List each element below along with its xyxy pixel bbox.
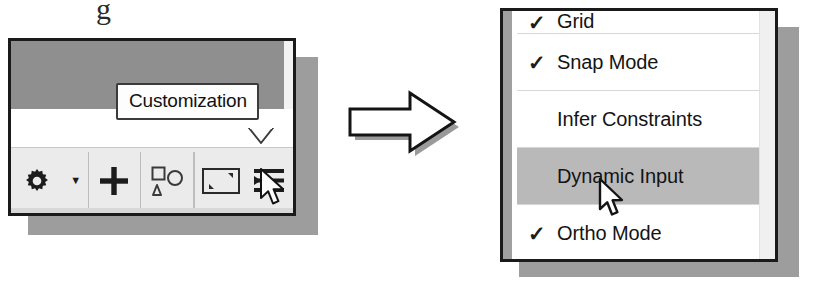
- plus-icon: [97, 164, 131, 198]
- mouse-cursor-menu: [598, 178, 628, 220]
- menu-check-grid: ✓: [517, 12, 557, 33]
- menu-item-label: Ortho Mode: [557, 222, 662, 245]
- menu-item-label: Infer Constraints: [557, 108, 702, 131]
- menu-right-rail: [759, 11, 775, 259]
- customization-menu: ✓ Grid ✓ Snap Mode Infer Constraints Dyn…: [503, 11, 775, 259]
- menu-item-dynamic-input[interactable]: Dynamic Input: [517, 148, 759, 204]
- status-bar-toolbar: ▼: [11, 147, 293, 213]
- customization-menu-screenshot: ✓ Grid ✓ Snap Mode Infer Constraints Dyn…: [500, 8, 778, 262]
- menu-check-ortho-mode: ✓: [517, 223, 557, 244]
- scan-artifact-glyph: g: [96, 0, 111, 26]
- settings-button[interactable]: [11, 152, 63, 210]
- menu-left-rail: [503, 11, 512, 259]
- chevron-down-icon: ▼: [70, 175, 81, 186]
- tooltip-customization: Customization: [116, 83, 259, 120]
- settings-dropdown-caret-button[interactable]: ▼: [63, 152, 88, 210]
- menu-item-label: Snap Mode: [557, 51, 658, 74]
- menu-item-snap-mode[interactable]: ✓ Snap Mode: [517, 34, 759, 90]
- add-button[interactable]: [89, 152, 139, 210]
- menu-check-snap-mode: ✓: [517, 52, 557, 73]
- shapes-button[interactable]: [140, 152, 192, 210]
- clean-screen-button[interactable]: [195, 152, 245, 210]
- drawing-area-band-edge: [284, 41, 293, 109]
- menu-item-label: Grid: [557, 10, 594, 33]
- gear-icon: [22, 166, 52, 196]
- transition-arrow: [347, 88, 467, 156]
- tooltip-tail: [248, 128, 274, 144]
- status-bar-screenshot: ▼: [8, 38, 296, 216]
- mouse-cursor-left: [259, 168, 289, 208]
- menu-item-ortho-mode[interactable]: ✓ Ortho Mode: [517, 205, 759, 261]
- menu-item-infer-constraints[interactable]: Infer Constraints: [517, 91, 759, 147]
- clean-screen-icon: [201, 166, 241, 196]
- menu-item-grid[interactable]: ✓ Grid: [517, 8, 759, 33]
- shapes-icon: [149, 164, 185, 198]
- right-block-arrow-icon: [347, 88, 467, 156]
- tooltip-label: Customization: [129, 90, 247, 111]
